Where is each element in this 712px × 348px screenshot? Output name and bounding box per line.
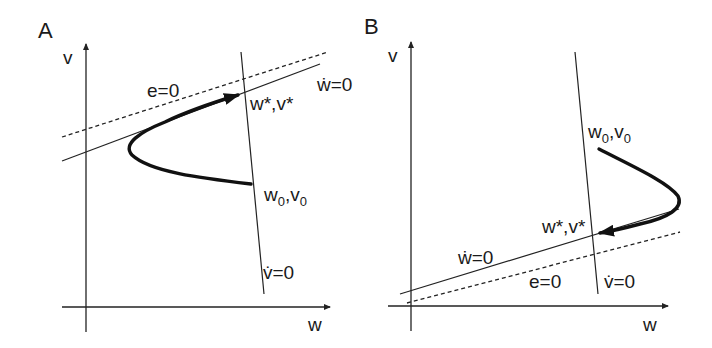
v-dot-nullcline (241, 52, 264, 294)
trajectory-a (129, 95, 251, 184)
trajectory-b (599, 149, 679, 233)
initial-w: w (587, 121, 602, 142)
initial-w-subscript: 0 (278, 194, 285, 209)
w-axis-label: w (642, 314, 657, 335)
e-zero-line (407, 232, 680, 303)
svg-text:w0,v0: w0,v0 (587, 121, 631, 146)
v-dot-nullcline (575, 52, 598, 294)
initial-v: v (290, 184, 300, 205)
initial-w: w (263, 184, 278, 205)
e-zero-label: e=0 (529, 271, 561, 292)
w-dot-zero-label: ẇ=0 (316, 74, 352, 95)
initial-point-label: w0,v0 (263, 184, 307, 209)
v-axis-label: v (63, 47, 73, 68)
v-dot-zero-label: v̇=0 (263, 262, 294, 283)
fixed-point-label: w*,v* (249, 93, 294, 114)
initial-v: v (614, 121, 624, 142)
initial-point-label: w0,v0 (587, 121, 631, 146)
w-axis-label: w (307, 314, 322, 335)
panel-letter-a: A (38, 18, 53, 43)
e-zero-label: e=0 (147, 80, 179, 101)
fixed-point-label: w*,v* (541, 216, 586, 237)
w-dot-zero-label: ẇ=0 (457, 247, 493, 268)
v-dot-zero-label: v̇=0 (604, 271, 635, 292)
initial-v-subscript: 0 (624, 131, 631, 146)
initial-w-subscript: 0 (602, 131, 609, 146)
svg-text:w0,v0: w0,v0 (263, 184, 307, 209)
phase-plane-figure: A v w e=0 ẇ=0 w*,v* w0,v0 v̇=0 B v w (0, 0, 712, 348)
panel-b: B v w w0,v0 w*,v* ẇ=0 e=0 v̇=0 (364, 14, 680, 335)
panel-a: A v w e=0 ẇ=0 w*,v* w0,v0 v̇=0 (38, 18, 352, 335)
panel-letter-b: B (364, 14, 379, 39)
v-axis-label: v (388, 45, 398, 66)
initial-v-subscript: 0 (300, 194, 307, 209)
